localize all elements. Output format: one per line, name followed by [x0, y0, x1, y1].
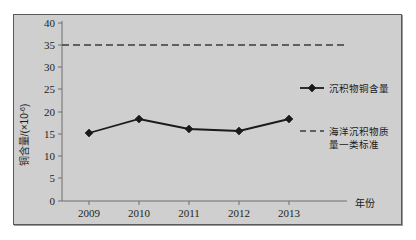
data-point-2009	[85, 129, 93, 137]
svg-text:铜含量/(×10-6): 铜含量/(×10-6)	[18, 104, 30, 167]
x-tick-label-2013: 2013	[278, 207, 301, 219]
chart-panel: 40 35 30 25 20 15 10 5 0 铜含量/(×10-6)	[13, 14, 402, 225]
data-point-2010	[135, 115, 143, 123]
y-tick-label-20: 20	[44, 106, 56, 118]
y-tick-label-25: 25	[44, 83, 56, 95]
y-axis-ticks	[58, 23, 62, 201]
data-point-2012	[235, 127, 243, 135]
legend-label-copper: 沉积物铜含量	[329, 83, 389, 94]
legend-item-standard[interactable]: 海洋沉积物质 量一类标准	[300, 126, 389, 150]
legend-item-copper[interactable]: 沉积物铜含量	[300, 83, 389, 94]
y-tick-label-35: 35	[44, 39, 56, 51]
line-chart-svg: 40 35 30 25 20 15 10 5 0 铜含量/(×10-6)	[14, 15, 403, 226]
chart-figure: 40 35 30 25 20 15 10 5 0 铜含量/(×10-6)	[0, 0, 416, 240]
y-tick-label-40: 40	[44, 17, 56, 29]
x-axis-title: 年份	[355, 197, 375, 209]
y-axis-title-prefix: 铜含量/(×10	[18, 113, 30, 167]
legend-label-standard-line2: 量一类标准	[329, 139, 379, 150]
y-tick-label-10: 10	[44, 150, 56, 162]
y-tick-label-0: 0	[50, 195, 56, 207]
x-axis-ticks	[89, 201, 289, 205]
chart-legend: 沉积物铜含量 海洋沉积物质 量一类标准	[300, 83, 389, 150]
y-axis: 40 35 30 25 20 15 10 5 0	[44, 17, 62, 207]
x-tick-label-2011: 2011	[178, 207, 200, 219]
y-tick-label-5: 5	[50, 172, 56, 184]
data-point-2011	[185, 125, 193, 133]
y-axis-title: 铜含量/(×10-6)	[18, 104, 30, 167]
legend-diamond-icon	[308, 84, 316, 92]
y-axis-title-suffix: )	[19, 104, 30, 107]
x-tick-label-2012: 2012	[228, 207, 250, 219]
legend-label-standard-line1: 海洋沉积物质	[329, 126, 389, 137]
data-point-2013	[285, 115, 293, 123]
y-tick-label-15: 15	[44, 128, 56, 140]
x-tick-label-2009: 2009	[78, 207, 101, 219]
y-tick-label-30: 30	[44, 61, 56, 73]
x-axis: 2009 2010 2011 2012 2013 年份	[62, 197, 375, 219]
x-tick-label-2010: 2010	[128, 207, 151, 219]
